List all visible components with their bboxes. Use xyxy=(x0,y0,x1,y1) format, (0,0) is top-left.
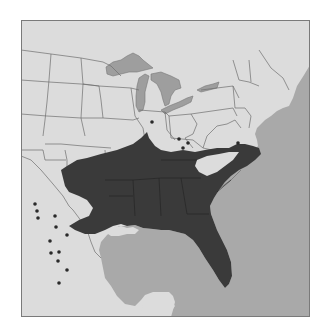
occurrence-dot xyxy=(57,250,61,254)
occurrence-dot xyxy=(36,216,40,220)
occurrence-dot xyxy=(150,120,154,124)
occurrence-dot xyxy=(181,146,185,150)
occurrence-dot xyxy=(186,141,190,145)
occurrence-dot xyxy=(49,251,53,255)
occurrence-dot xyxy=(177,137,181,141)
range-map-svg xyxy=(21,20,310,317)
occurrence-dot xyxy=(33,202,37,206)
occurrence-dot xyxy=(57,281,61,285)
occurrence-dot xyxy=(53,214,57,218)
occurrence-dot xyxy=(54,225,58,229)
occurrence-dot xyxy=(236,141,240,145)
occurrence-dot xyxy=(65,268,69,272)
occurrence-dot xyxy=(48,239,52,243)
occurrence-dot xyxy=(35,209,39,213)
occurrence-dot xyxy=(65,233,69,237)
occurrence-dot xyxy=(56,259,60,263)
range-map xyxy=(21,20,310,317)
